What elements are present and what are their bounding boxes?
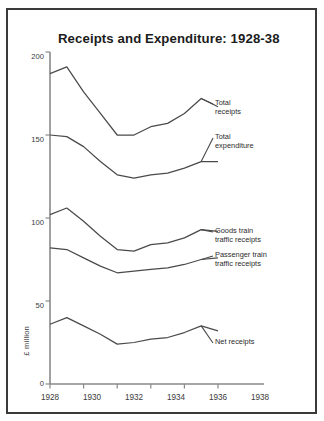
chart-label-leader-lines [201,98,213,343]
figure-frame: Receipts and Expenditure: 1928-38 200 15… [6,8,317,414]
chart-axes [46,52,265,389]
chart-canvas [8,10,319,412]
chart-series-lines [50,67,218,344]
chart-plot-area: Receipts and Expenditure: 1928-38 200 15… [8,10,319,412]
